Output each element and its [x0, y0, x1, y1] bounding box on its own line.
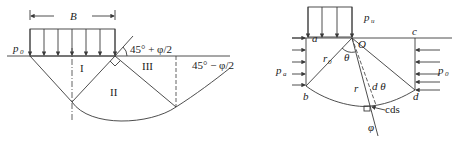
bearing-capacity-diagrams: B p 0 I II III 45° + φ/2 45° [0, 0, 452, 143]
point-O: O [358, 38, 366, 50]
dtheta-label: d θ [372, 80, 386, 92]
width-label: B [70, 10, 77, 22]
right-figure: p u p a p 0 a b c [275, 7, 452, 136]
svg-text:a: a [283, 70, 287, 78]
right-pressure-label: p [437, 64, 444, 76]
left-figure: B p 0 I II III 45° + φ/2 45° [7, 10, 234, 121]
zone-1-label: I [80, 62, 84, 74]
point-d: d [413, 90, 419, 102]
point-a: a [312, 32, 318, 44]
point-c: c [412, 25, 417, 37]
theta-label: θ [344, 51, 350, 63]
svg-text:0: 0 [328, 58, 332, 66]
zone-3-label: III [142, 60, 153, 72]
svg-text:0: 0 [20, 48, 24, 56]
left-pressure-label: p [275, 64, 282, 76]
phi-label: φ [368, 121, 374, 133]
svg-text:u: u [371, 17, 375, 25]
cds-label: cds [385, 103, 400, 115]
svg-text:0: 0 [445, 70, 449, 78]
surcharge-label: p [12, 42, 19, 54]
radius-label: r [354, 82, 359, 94]
load-label: p [363, 11, 370, 23]
zone-2-label: II [110, 86, 118, 98]
angle-top-label: 45° + φ/2 [130, 43, 172, 55]
angle-right-label: 45° − φ/2 [192, 59, 234, 71]
point-b: b [303, 90, 309, 102]
